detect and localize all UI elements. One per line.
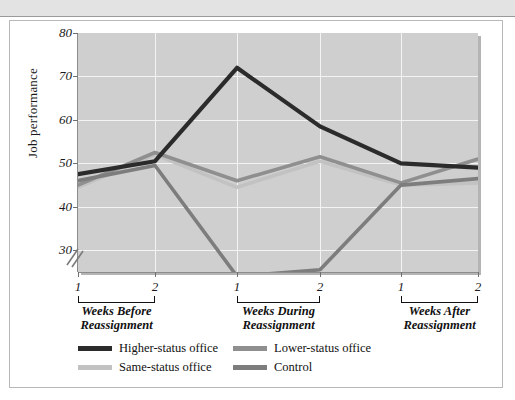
y-tick-mark — [73, 76, 78, 77]
x-group-label-line2: Reassignment — [361, 319, 515, 333]
legend-item[interactable]: Lower-status office — [233, 341, 371, 356]
y-tick-label: 50 — [59, 155, 72, 171]
legend-label: Lower-status office — [274, 341, 371, 356]
x-tick-label: 1 — [391, 279, 411, 295]
x-group-label: Weeks DuringReassignment — [197, 305, 360, 332]
legend-label: Same-status office — [119, 360, 211, 375]
legend-swatch-icon — [78, 365, 112, 370]
x-group-label-line1: Weeks During — [197, 305, 360, 319]
y-tick-mark — [73, 163, 78, 164]
x-group-bracket — [401, 296, 478, 303]
legend-label: Higher-status office — [119, 341, 218, 356]
line-chart: 304050607080 Job performance 121212 Week… — [0, 0, 515, 400]
y-tick-label: 60 — [59, 112, 72, 128]
x-group-label-line2: Reassignment — [197, 319, 360, 333]
x-group-label-line1: Weeks After — [361, 305, 515, 319]
x-tick-mark — [478, 272, 479, 277]
series-line-control — [78, 166, 478, 273]
y-tick-mark — [73, 120, 78, 121]
legend-item[interactable]: Higher-status office — [78, 341, 218, 356]
x-group-label: Weeks AfterReassignment — [361, 305, 515, 332]
axis-break-slashes-icon — [64, 246, 86, 270]
legend-item[interactable]: Same-status office — [78, 360, 211, 375]
x-group-bracket — [237, 296, 320, 303]
x-tick-mark — [401, 272, 402, 277]
y-tick-label: 70 — [59, 68, 72, 84]
x-tick-label: 1 — [68, 279, 88, 295]
x-tick-mark — [320, 272, 321, 277]
x-axis-line — [78, 272, 479, 273]
x-tick-label: 2 — [310, 279, 330, 295]
x-group-bracket — [78, 296, 155, 303]
x-group-label: Weeks BeforeReassignment — [38, 305, 195, 332]
legend-swatch-icon — [233, 365, 267, 370]
series-lines — [78, 33, 478, 272]
legend-label: Control — [274, 360, 312, 375]
x-tick-mark — [155, 272, 156, 277]
legend-swatch-icon — [78, 346, 112, 351]
x-group-label-line1: Weeks Before — [38, 305, 195, 319]
y-axis-label: Job performance — [25, 53, 41, 173]
y-tick-label: 40 — [59, 199, 72, 215]
x-tick-label: 1 — [227, 279, 247, 295]
plot-area — [78, 33, 478, 272]
legend-swatch-icon — [233, 346, 267, 351]
x-tick-label: 2 — [468, 279, 488, 295]
x-group-label-line2: Reassignment — [38, 319, 195, 333]
y-tick-label: 80 — [59, 25, 72, 41]
x-tick-mark — [78, 272, 79, 277]
y-axis-line — [77, 33, 78, 272]
x-tick-mark — [237, 272, 238, 277]
y-tick-mark — [73, 33, 78, 34]
x-tick-label: 2 — [145, 279, 165, 295]
legend-item[interactable]: Control — [233, 360, 312, 375]
y-tick-mark — [73, 207, 78, 208]
